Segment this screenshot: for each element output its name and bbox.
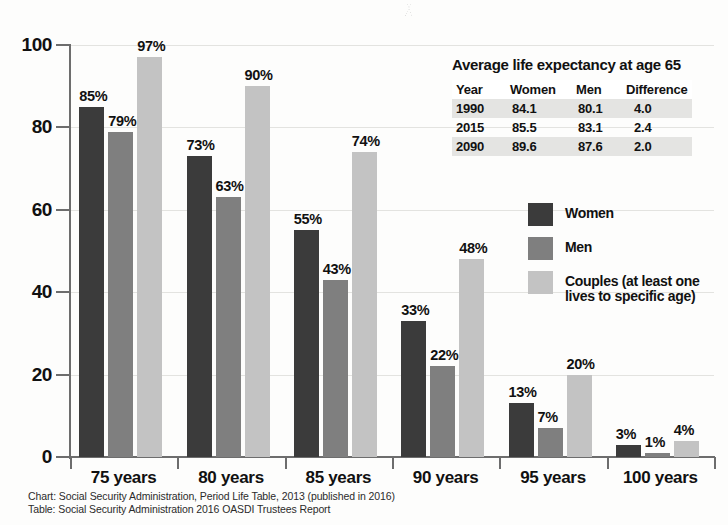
bar-wrapper: 4% (674, 45, 699, 457)
y-tick-label: 40 (6, 281, 52, 303)
bar-wrapper: 33% (401, 45, 426, 457)
citation-line-chart: Chart: Social Security Administration, P… (28, 490, 395, 503)
bar-wrapper: 74% (352, 45, 377, 457)
y-axis-line (69, 44, 71, 459)
bar[interactable] (294, 230, 319, 457)
source-citation: Chart: Social Security Administration, P… (28, 490, 395, 516)
x-tick-mark (714, 457, 716, 469)
bar-wrapper: 55% (294, 45, 319, 457)
y-tick-mark (56, 291, 70, 293)
bar-group: 13%7%20% (509, 45, 592, 457)
chart-page: Average life expectancy at age 65 Year W… (0, 0, 728, 525)
bar[interactable] (187, 156, 212, 457)
bar-value-label: 55% (294, 211, 322, 227)
bar-wrapper: 97% (137, 45, 162, 457)
bar-wrapper: 13% (509, 45, 534, 457)
bar[interactable] (459, 259, 484, 457)
bar[interactable] (137, 57, 162, 457)
bar-wrapper: 1% (645, 45, 670, 457)
x-tick-label: 75 years (70, 468, 177, 488)
bar[interactable] (674, 441, 699, 457)
bar[interactable] (108, 132, 133, 457)
bar-value-label: 48% (459, 240, 487, 256)
bar-group: 85%79%97% (79, 45, 162, 457)
bar-value-label: 97% (137, 38, 165, 54)
bar-value-label: 13% (509, 384, 537, 400)
bar-value-label: 20% (567, 356, 595, 372)
bar-value-label: 3% (616, 426, 636, 442)
bar-wrapper: 48% (459, 45, 484, 457)
bar-value-label: 79% (108, 113, 136, 129)
y-tick-label: 20 (6, 364, 52, 386)
x-tick-label: 80 years (177, 468, 284, 488)
bar-wrapper: 43% (323, 45, 348, 457)
bar-value-label: 90% (245, 67, 273, 83)
bar[interactable] (430, 366, 455, 457)
x-tick-label: 85 years (285, 468, 392, 488)
bar-wrapper: 3% (616, 45, 641, 457)
y-tick-mark (56, 126, 70, 128)
bar-group: 3%1%4% (616, 45, 699, 457)
bar[interactable] (352, 152, 377, 457)
bar-group: 55%43%74% (294, 45, 377, 457)
y-tick-label: 80 (6, 116, 52, 138)
bar[interactable] (401, 321, 426, 457)
bar[interactable] (323, 280, 348, 457)
bar-value-label: 1% (645, 434, 665, 450)
x-tick-label: 90 years (392, 468, 499, 488)
bar[interactable] (616, 445, 641, 457)
bar-value-label: 63% (216, 178, 244, 194)
y-tick-mark (56, 209, 70, 211)
bar-wrapper: 85% (79, 45, 104, 457)
bar[interactable] (645, 453, 670, 457)
y-tick-label: 100 (6, 34, 52, 56)
bar-wrapper: 90% (245, 45, 270, 457)
bar[interactable] (567, 375, 592, 457)
bar-group: 73%63%90% (187, 45, 270, 457)
bar-value-label: 22% (430, 347, 458, 363)
bar-group: 33%22%48% (401, 45, 484, 457)
citation-line-table: Table: Social Security Administration 20… (28, 503, 395, 516)
x-tick-label: 100 years (607, 468, 714, 488)
bar[interactable] (245, 86, 270, 457)
bar-value-label: 33% (401, 302, 429, 318)
bar-value-label: 73% (187, 137, 215, 153)
bar-wrapper: 79% (108, 45, 133, 457)
bar[interactable] (216, 197, 241, 457)
bar[interactable] (538, 428, 563, 457)
bar-value-label: 74% (352, 133, 380, 149)
y-tick-label: 0 (6, 446, 52, 468)
scan-artifact (402, 4, 416, 16)
bar[interactable] (509, 403, 534, 457)
bar[interactable] (79, 107, 104, 457)
bar-value-label: 7% (538, 409, 558, 425)
y-tick-mark (56, 44, 70, 46)
bar-wrapper: 20% (567, 45, 592, 457)
x-tick-mark (70, 457, 72, 469)
bar-wrapper: 22% (430, 45, 455, 457)
y-tick-mark (56, 456, 70, 458)
x-tick-label: 95 years (499, 468, 606, 488)
bar-value-label: 85% (79, 88, 107, 104)
y-tick-mark (56, 374, 70, 376)
bar-value-label: 43% (323, 261, 351, 277)
bar-wrapper: 73% (187, 45, 212, 457)
y-tick-label: 60 (6, 199, 52, 221)
bar-wrapper: 7% (538, 45, 563, 457)
bar-value-label: 4% (674, 422, 694, 438)
bar-wrapper: 63% (216, 45, 241, 457)
